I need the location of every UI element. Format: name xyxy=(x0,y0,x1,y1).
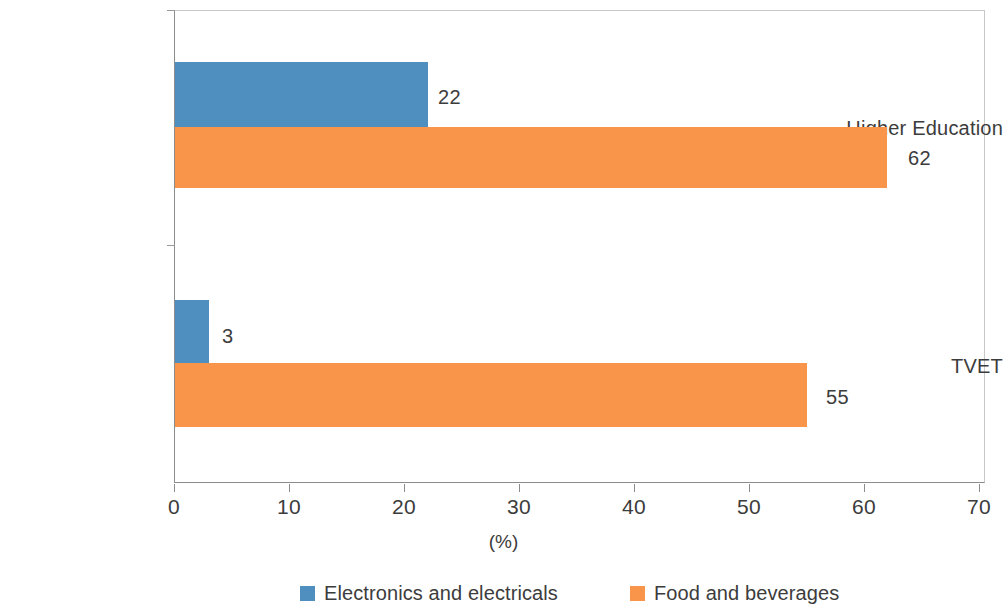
bar-tvet-food[interactable] xyxy=(175,363,807,427)
x-axis-tick-30 xyxy=(519,484,520,492)
x-axis-label-40: 40 xyxy=(622,496,646,517)
bar-value-label-higher-education-food: 62 xyxy=(908,148,931,168)
x-axis-label-10: 10 xyxy=(277,496,301,517)
bar-tvet-electronics[interactable] xyxy=(175,300,209,363)
x-axis-label-70: 70 xyxy=(967,496,991,517)
legend-swatch-icon-food xyxy=(630,586,645,601)
category-axis-tick-top xyxy=(167,10,175,11)
x-axis-label-20: 20 xyxy=(392,496,416,517)
x-axis-label-30: 30 xyxy=(507,496,531,517)
legend-item-food-and-beverages[interactable]: Food and beverages xyxy=(630,583,839,603)
x-axis-tick-50 xyxy=(749,484,750,492)
bar-higher-education-electronics[interactable] xyxy=(175,62,428,127)
bar-value-label-tvet-food: 55 xyxy=(826,387,849,407)
bar-higher-education-food[interactable] xyxy=(175,127,887,188)
x-axis-label-50: 50 xyxy=(737,496,761,517)
x-axis-tick-70 xyxy=(979,484,980,492)
x-axis-tick-20 xyxy=(404,484,405,492)
legend-swatch-icon-electronics xyxy=(300,586,315,601)
x-axis-label-0: 0 xyxy=(168,496,180,517)
x-axis-tick-10 xyxy=(289,484,290,492)
legend-label-food: Food and beverages xyxy=(654,583,839,603)
x-axis-title: (%) xyxy=(489,532,519,551)
x-axis-tick-40 xyxy=(634,484,635,492)
bar-value-label-higher-education-electronics: 22 xyxy=(438,87,461,107)
legend-label-electronics: Electronics and electricals xyxy=(324,583,558,603)
x-axis-label-60: 60 xyxy=(852,496,876,517)
bar-chart: Higher Education TVET 22 62 3 55 0 10 20… xyxy=(0,0,1003,611)
x-axis-title-wrapper: (%) xyxy=(0,532,1003,551)
bar-value-label-tvet-electronics: 3 xyxy=(222,326,234,346)
category-label-tvet: TVET xyxy=(835,356,1003,376)
x-axis-tick-0 xyxy=(174,484,175,492)
legend-item-electronics-and-electricals[interactable]: Electronics and electricals xyxy=(300,583,558,603)
chart-legend: Electronics and electricals Food and bev… xyxy=(0,580,1003,608)
category-axis-tick-mid xyxy=(167,245,175,246)
x-axis-tick-60 xyxy=(864,484,865,492)
